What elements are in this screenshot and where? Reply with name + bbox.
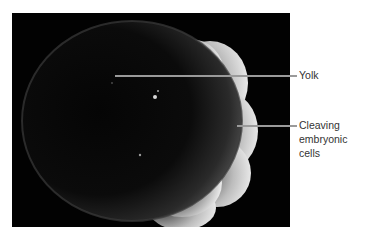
cleaving-label-line-1: Cleaving [299, 118, 347, 132]
micrograph-photo [12, 13, 290, 227]
cleaving-leader-line [237, 125, 297, 127]
yolk-label: Yolk [299, 68, 318, 82]
yolk-leader-line [115, 75, 297, 77]
cleaving-label-line-3: cells [299, 146, 347, 160]
embryo-illustration [12, 13, 290, 227]
cleaving-cells-label: Cleaving embryonic cells [299, 118, 347, 160]
cleaving-label-line-2: embryonic [299, 132, 347, 146]
